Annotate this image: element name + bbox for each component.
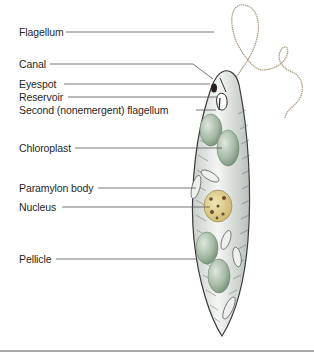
label-eyespot: Eyespot (19, 78, 56, 90)
label-pellicle: Pellicle (19, 253, 51, 265)
reservoir (217, 93, 228, 110)
label-flagellum: Flagellum (19, 26, 64, 38)
label-second-flagellum: Second (nonemergent) flagellum (19, 104, 168, 116)
label-nucleus: Nucleus (19, 201, 56, 213)
chloroplast (208, 259, 230, 293)
chloroplast (196, 232, 218, 264)
eyespot (211, 84, 217, 93)
label-reservoir: Reservoir (19, 91, 63, 103)
euglena-illustration (0, 0, 314, 355)
label-canal: Canal (19, 58, 46, 70)
label-chloroplast: Chloroplast (19, 142, 71, 154)
label-paramylon-body: Paramylon body (19, 182, 93, 194)
euglena-diagram: Flagellum Canal Eyespot Reservoir Second… (0, 0, 314, 355)
